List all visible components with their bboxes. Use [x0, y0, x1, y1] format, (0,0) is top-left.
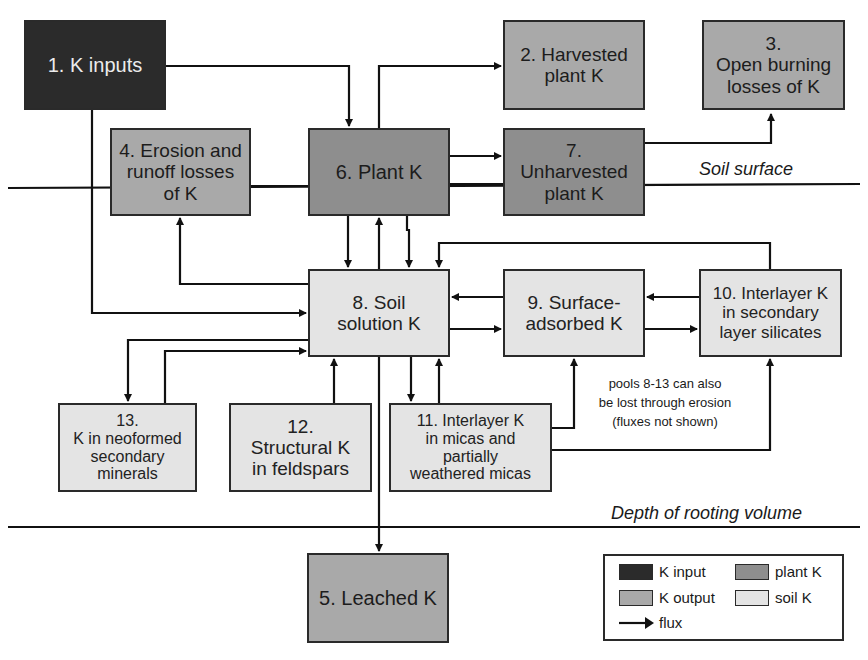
box-9-surface-adsorbed-k: 9. Surface- adsorbed K	[503, 269, 645, 357]
box-3-open-burning-losses: 3. Open burning losses of K	[702, 20, 845, 110]
legend-item-k-input: K input	[619, 563, 706, 580]
box-label: layer silicates	[713, 323, 828, 342]
box-label: 11. Interlayer K	[410, 412, 531, 430]
erosion-note: pools 8-13 can also be lost through eros…	[580, 375, 750, 432]
box-label: weathered micas	[410, 465, 531, 483]
legend-label: K input	[659, 563, 706, 580]
box-label: solution K	[337, 313, 420, 334]
box-label: 3.	[716, 33, 831, 54]
box-label: adsorbed K	[525, 313, 622, 334]
box-10-interlayer-k-secondary-silicates: 10. Interlayer K in secondary layer sili…	[699, 269, 842, 357]
box-label: 2. Harvested	[520, 44, 628, 65]
legend-label: plant K	[775, 563, 822, 580]
box-label: in micas and	[410, 430, 531, 448]
box-label: runoff losses	[119, 161, 242, 182]
box-label: 5. Leached K	[319, 587, 437, 609]
legend-item-k-output: K output	[619, 589, 715, 606]
box-label: 1. K inputs	[48, 54, 143, 76]
box-label: 10. Interlayer K	[713, 284, 828, 303]
box-label: in feldspars	[251, 458, 350, 479]
legend-swatch-plant-k	[735, 564, 769, 580]
box-6-plant-k: 6. Plant K	[308, 128, 450, 216]
rooting-depth-label: Depth of rooting volume	[611, 503, 802, 524]
note-line: pools 8-13 can also	[580, 375, 750, 394]
box-label: 13.	[73, 412, 182, 430]
box-label: 4. Erosion and	[119, 140, 242, 161]
soil-surface-label: Soil surface	[699, 159, 793, 180]
note-line: (fluxes not shown)	[580, 413, 750, 432]
box-label: Open burning	[716, 54, 831, 75]
box-label: Structural K	[251, 437, 350, 458]
box-label: losses of K	[716, 76, 831, 97]
legend: K input plant K K output soil K flux	[603, 554, 844, 641]
legend-swatch-k-output	[619, 590, 653, 606]
box-label: Unharvested	[520, 161, 628, 182]
legend-label: K output	[659, 589, 715, 606]
box-2-harvested-plant-k: 2. Harvested plant K	[503, 20, 645, 110]
legend-swatch-k-input	[619, 564, 653, 580]
box-8-soil-solution-k: 8. Soil solution K	[308, 269, 450, 357]
legend-label: soil K	[775, 589, 812, 606]
box-1-k-inputs: 1. K inputs	[24, 20, 166, 110]
box-label: K in neoformed	[73, 430, 182, 448]
box-13-k-neoformed-minerals: 13. K in neoformed secondary minerals	[58, 403, 197, 492]
box-label: 8. Soil	[337, 292, 420, 313]
legend-item-plant-k: plant K	[735, 563, 822, 580]
box-label: of K	[119, 183, 242, 204]
box-label: 6. Plant K	[336, 161, 423, 183]
box-11-interlayer-k-micas: 11. Interlayer K in micas and partially …	[389, 403, 552, 492]
legend-item-flux: flux	[619, 614, 682, 631]
box-5-leached-k: 5. Leached K	[307, 553, 449, 643]
box-7-unharvested-plant-k: 7. Unharvested plant K	[503, 128, 645, 216]
box-label: plant K	[520, 65, 628, 86]
box-label: secondary	[73, 448, 182, 466]
note-line: be lost through erosion	[580, 394, 750, 413]
legend-swatch-soil-k	[735, 590, 769, 606]
box-label: minerals	[73, 465, 182, 483]
legend-label: flux	[659, 614, 682, 631]
box-label: partially	[410, 448, 531, 466]
box-12-structural-k-feldspars: 12. Structural K in feldspars	[229, 403, 372, 492]
box-label: 7.	[520, 140, 628, 161]
flux-arrow-icon	[619, 616, 655, 630]
box-label: 9. Surface-	[525, 292, 622, 313]
box-label: in secondary	[713, 303, 828, 322]
legend-item-soil-k: soil K	[735, 589, 812, 606]
box-4-erosion-runoff-losses: 4. Erosion and runoff losses of K	[110, 128, 251, 216]
box-label: plant K	[520, 183, 628, 204]
box-label: 12.	[251, 416, 350, 437]
